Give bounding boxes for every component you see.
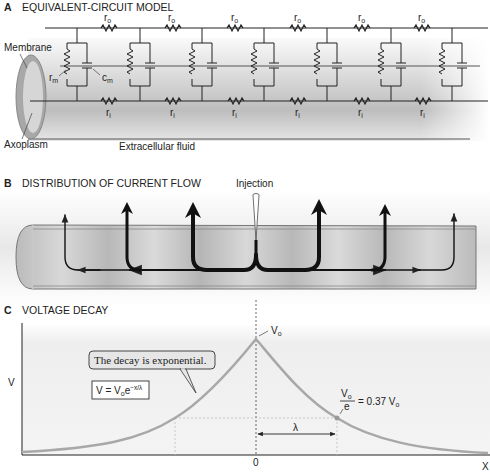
axoplasm-face <box>23 61 43 133</box>
panel-b-title: DISTRIBUTION OF CURRENT FLOW <box>22 177 201 189</box>
callout-text: The decay is exponential. <box>94 354 207 366</box>
svg-text:= 0.37 Vo: = 0.37 Vo <box>358 396 400 408</box>
lambda-label: λ <box>293 422 298 433</box>
panel-b: B DISTRIBUTION OF CURRENT FLOW Injection <box>0 177 490 306</box>
x-origin-label: 0 <box>253 457 259 468</box>
injection-label: Injection <box>236 178 273 189</box>
panel-a-letter: A <box>4 1 12 13</box>
panel-c-letter: C <box>4 304 12 316</box>
axoplasm-label: Axoplasm <box>4 139 48 150</box>
r-o-labels: ro ro ro ro ro ro <box>104 12 425 24</box>
svg-text:ro: ro <box>231 12 238 24</box>
svg-text:ro: ro <box>104 12 111 24</box>
equation-box: V = Voe−x/λ <box>92 381 149 399</box>
figure: A EQUIVALENT-CIRCUIT MODEL <box>0 0 490 474</box>
lambda-point <box>335 416 340 421</box>
extracellular-fluid-label: Extracellular fluid <box>119 141 195 152</box>
panel-c: C VOLTAGE DECAY V X 0 λ Vo Vo e = 0.37 V… <box>4 300 490 472</box>
membrane-label: Membrane <box>4 42 52 53</box>
panel-a-title: EQUIVALENT-CIRCUIT MODEL <box>22 1 173 13</box>
panel-c-title: VOLTAGE DECAY <box>22 304 108 316</box>
y-axis-label: V <box>8 377 15 388</box>
svg-text:ro: ro <box>358 12 365 24</box>
svg-text:e: e <box>344 401 350 412</box>
panel-b-letter: B <box>4 177 12 189</box>
panel-a: A EQUIVALENT-CIRCUIT MODEL <box>4 1 490 152</box>
x-axis-label: X <box>482 461 489 472</box>
svg-text:ro: ro <box>294 12 301 24</box>
svg-text:ro: ro <box>168 12 175 24</box>
axon-tube <box>16 225 476 289</box>
svg-text:ro: ro <box>418 12 425 24</box>
